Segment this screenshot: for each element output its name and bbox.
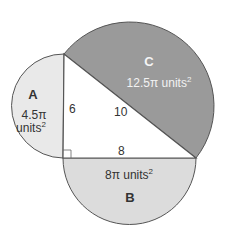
side-label-vertical: 6 [69,102,76,116]
region-a-letter: A [28,87,38,102]
diagram-canvas: 6 10 8 A 4.5π units2 C 12.5π units2 8π u… [0,0,226,240]
pythagorean-semicircle-diagram: 6 10 8 A 4.5π units2 C 12.5π units2 8π u… [0,0,226,240]
side-label-hypotenuse: 10 [114,105,128,119]
region-b-letter: B [125,190,134,205]
semicircle-a [12,54,64,158]
region-b-area: 8π units2 [105,167,154,182]
region-c-letter: C [144,54,154,69]
region-c-area: 12.5π units2 [127,75,192,90]
side-label-horizontal: 8 [118,144,125,158]
